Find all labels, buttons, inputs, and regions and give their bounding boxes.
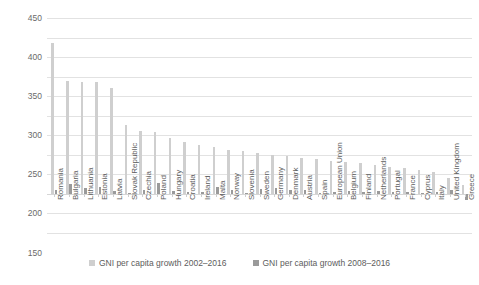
bar-group — [47, 18, 62, 233]
x-axis-category-label: Spain — [321, 179, 329, 199]
x-axis-category-label: Poland — [160, 175, 168, 200]
x-axis-category-label: Slovak Republic — [131, 143, 139, 200]
legend-item-label: GNI per capita growth 2008–2016 — [263, 259, 391, 268]
x-axis-tickmark — [172, 194, 173, 197]
bar-series-0[interactable] — [169, 138, 172, 194]
bar-series-0[interactable] — [81, 82, 84, 194]
bar-series-0[interactable] — [227, 150, 230, 194]
x-axis-category-label: Italy — [438, 185, 446, 200]
bar-series-0[interactable] — [213, 147, 216, 194]
bar-group — [76, 18, 91, 233]
legend-item-label: GNI per capita growth 2002–2016 — [99, 259, 227, 268]
bar-series-0[interactable] — [300, 158, 303, 194]
bar-series-0[interactable] — [447, 178, 450, 194]
x-axis-category-label: Cyprus — [424, 175, 432, 200]
bar-group — [91, 18, 106, 233]
bar-series-0[interactable] — [198, 145, 201, 194]
bar-series-0[interactable] — [51, 43, 54, 194]
bar-series-0[interactable] — [139, 131, 142, 194]
bar-series-0[interactable] — [125, 125, 128, 194]
bar-group — [443, 18, 458, 233]
bar-series-0[interactable] — [344, 162, 347, 194]
x-axis-category-label: Austria — [306, 175, 314, 200]
x-axis-tickmark — [362, 194, 363, 197]
x-axis-category-label: Denmark — [292, 167, 300, 199]
y-axis-tick-label: 150 — [28, 248, 42, 257]
bar-group — [369, 18, 384, 233]
x-axis-category-label: Sweden — [263, 171, 271, 200]
x-axis-category-label: Croatia — [189, 174, 197, 200]
bar-series-0[interactable] — [66, 81, 69, 194]
x-axis-tickmark — [201, 194, 202, 197]
x-axis-category-label: Estonia — [101, 173, 109, 200]
bar-group — [340, 18, 355, 233]
x-axis-tickmark — [84, 194, 85, 197]
bar-series-0[interactable] — [154, 132, 157, 194]
x-axis-tickmark — [216, 194, 217, 197]
x-axis-category-label: Greece — [468, 174, 476, 200]
x-axis-tickmark — [421, 194, 422, 197]
bar-series-0[interactable] — [256, 153, 259, 194]
legend-item-series-0[interactable]: GNI per capita growth 2002–2016 — [89, 259, 227, 268]
x-axis-category-label: Portugal — [394, 170, 402, 200]
bar-group — [325, 18, 340, 233]
x-axis-category-label: Latvia — [116, 179, 124, 200]
x-axis-category-label: United Kingdom — [453, 143, 461, 200]
bar-series-0[interactable] — [374, 165, 377, 194]
legend-item-series-1[interactable]: GNI per capita growth 2008–2016 — [253, 259, 391, 268]
x-axis-category-label: Hungary — [175, 170, 183, 200]
y-axis-tick-label: 400 — [28, 53, 42, 62]
gridline: −100 — [47, 233, 472, 234]
bar-group — [238, 18, 253, 233]
bar-series-0[interactable] — [462, 185, 465, 194]
x-axis-tickmark — [260, 194, 261, 197]
bar-series-0[interactable] — [242, 151, 245, 194]
bar-group — [296, 18, 311, 233]
bar-group — [194, 18, 209, 233]
bar-group — [413, 18, 428, 233]
y-axis-tick-label: 350 — [28, 92, 42, 101]
bar-group — [164, 18, 179, 233]
bar-group — [120, 18, 135, 233]
bar-series-0[interactable] — [271, 155, 274, 194]
x-axis-tickmark — [465, 194, 466, 197]
bar-group — [384, 18, 399, 233]
x-axis-category-label: Germany — [277, 167, 285, 200]
legend-swatch-icon — [253, 260, 259, 266]
x-axis-tickmark — [377, 194, 378, 197]
x-axis-tickmark — [406, 194, 407, 197]
bar-series-0[interactable] — [183, 142, 186, 194]
bar-group — [135, 18, 150, 233]
chart-container: 450400350300250200150100500−50−100 Roman… — [0, 0, 479, 285]
x-axis-tickmark — [318, 194, 319, 197]
bar-group — [150, 18, 165, 233]
bar-series-0[interactable] — [286, 156, 289, 194]
bar-series-0[interactable] — [432, 172, 435, 194]
bar-series-0[interactable] — [418, 170, 421, 194]
bar-series-0[interactable] — [110, 88, 113, 194]
bar-series-0[interactable] — [315, 159, 318, 194]
x-axis-tickmark — [289, 194, 290, 197]
x-axis-category-label: Ireland — [204, 175, 212, 199]
bar-group — [62, 18, 77, 233]
bar-series-0[interactable] — [330, 161, 333, 194]
bar-series-0[interactable] — [403, 168, 406, 194]
bar-series-0[interactable] — [359, 163, 362, 194]
bars-layer — [47, 18, 472, 233]
x-axis-category-label: Belgium — [350, 171, 358, 200]
legend-swatch-icon — [89, 260, 95, 266]
y-axis-tick-label: 250 — [28, 170, 42, 179]
bar-group — [208, 18, 223, 233]
x-axis-category-label: Romania — [57, 168, 65, 200]
x-axis-tickmark — [128, 194, 129, 197]
bar-series-0[interactable] — [95, 82, 98, 194]
x-axis-category-label: Czechia — [145, 171, 153, 200]
x-axis-tickmark — [157, 194, 158, 197]
x-axis-tickmark — [69, 194, 70, 197]
bar-group — [267, 18, 282, 233]
bar-group — [311, 18, 326, 233]
x-axis-category-label: Lithuania — [87, 167, 95, 199]
bar-group — [281, 18, 296, 233]
bar-series-0[interactable] — [388, 167, 391, 194]
y-axis-tick-label: 300 — [28, 131, 42, 140]
